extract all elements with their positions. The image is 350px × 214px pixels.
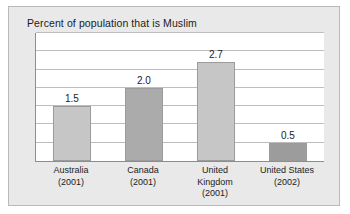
bar-series: 1.52.02.70.5 (36, 33, 324, 161)
x-axis-label-line: United States (251, 165, 323, 177)
x-axis-label-line: United (179, 165, 251, 177)
chart-title: Percent of population that is Muslim (27, 17, 197, 29)
plot-area: 1.52.02.70.5 (35, 33, 324, 162)
x-axis-label-line: (2002) (251, 177, 323, 189)
bar-value-label: 2.0 (137, 75, 151, 86)
bar-value-label: 2.7 (209, 49, 223, 60)
x-axis-label-line: (2001) (35, 177, 107, 189)
bar-group: 0.5 (269, 33, 306, 161)
x-axis-label-line: (2001) (107, 177, 179, 189)
x-axis-label-line: Canada (107, 165, 179, 177)
bar-value-label: 1.5 (65, 93, 79, 104)
x-axis-label-line: (2001) (179, 188, 251, 200)
bar (125, 88, 162, 161)
x-axis-label-line: Australia (35, 165, 107, 177)
bar (197, 62, 234, 161)
x-axis-label: Australia(2001) (35, 165, 107, 188)
x-axis-label: United States(2002) (251, 165, 323, 188)
bar-group: 1.5 (53, 33, 90, 161)
bar (269, 143, 306, 161)
x-axis-label: Canada(2001) (107, 165, 179, 188)
x-axis-label: UnitedKingdom(2001) (179, 165, 251, 200)
x-axis-label-line: Kingdom (179, 177, 251, 189)
bar-group: 2.7 (197, 33, 234, 161)
bar (53, 106, 90, 161)
chart-panel: Percent of population that is Muslim 1.5… (8, 6, 340, 206)
bar-value-label: 0.5 (281, 130, 295, 141)
bar-group: 2.0 (125, 33, 162, 161)
x-axis-labels: Australia(2001)Canada(2001)UnitedKingdom… (35, 165, 325, 207)
